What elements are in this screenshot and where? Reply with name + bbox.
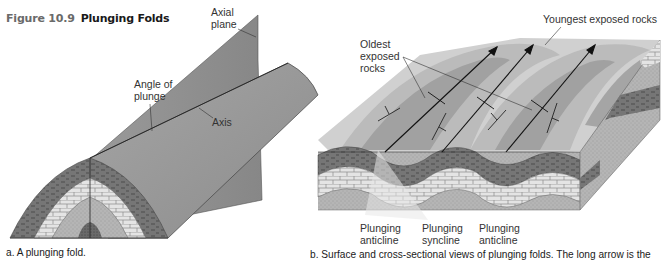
caption-panel-b: b. Surface and cross-sectional views of … [310,248,651,260]
label-angle-of-plunge: Angle of plunge [134,78,173,102]
plunging-folds-illustration [0,0,667,267]
label-youngest-exposed-rocks: Youngest exposed rocks [543,13,657,25]
caption-panel-a: a. A plunging fold. [6,246,86,258]
label-plunging-anticline-2: Plunging anticline [479,222,520,246]
label-oldest-exposed-rocks: Oldest exposed rocks [360,38,400,74]
label-axial-plane: Axial plane [211,6,237,30]
panel-a-plunging-fold [10,15,318,238]
label-plunging-anticline-1: Plunging anticline [360,222,401,246]
label-axis: Axis [212,116,232,128]
label-plunging-syncline: Plunging syncline [422,222,463,246]
